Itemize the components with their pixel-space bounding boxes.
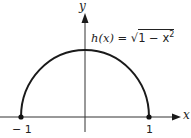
- function-label: h(x) = √1 − x2: [91, 31, 174, 44]
- tick-label-one: 1: [146, 124, 153, 135]
- endpoint-right: [146, 114, 151, 119]
- tick-label-neg-one: − 1: [12, 124, 32, 135]
- y-axis-arrow-icon: [82, 13, 89, 23]
- graph-canvas: [0, 0, 191, 138]
- x-axis-arrow-icon: [172, 114, 181, 121]
- x-axis-label: x: [183, 109, 190, 121]
- function-exponent: 2: [169, 30, 174, 39]
- endpoint-left: [18, 114, 23, 119]
- y-axis-label: y: [79, 0, 86, 12]
- function-lhs: h(x) =: [91, 31, 131, 45]
- function-radicand: 1 − x2: [138, 29, 174, 45]
